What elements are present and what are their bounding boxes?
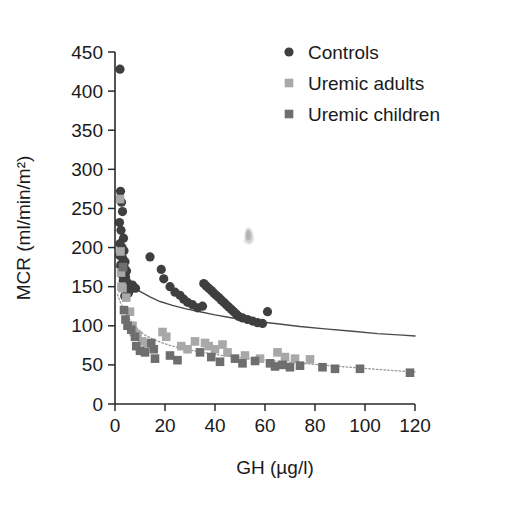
data-point <box>207 353 216 362</box>
x-axis-title: GH (µg/l) <box>236 457 313 478</box>
data-point <box>122 293 131 302</box>
legend-label: Uremic adults <box>308 73 424 94</box>
data-point <box>115 218 124 227</box>
data-point <box>263 307 272 316</box>
y-tick-label: 450 <box>71 42 103 63</box>
data-point <box>116 195 125 204</box>
data-point <box>251 357 260 366</box>
x-tick-label: 0 <box>110 415 121 436</box>
y-axis-title: MCR (ml/min/m²) <box>13 156 34 301</box>
data-point <box>162 332 171 341</box>
y-tick-label: 200 <box>71 237 103 258</box>
chart-figure: 0501001502002503003504004500204060801001… <box>0 0 514 511</box>
data-point <box>306 355 315 364</box>
y-tick-label: 0 <box>92 394 103 415</box>
legend-marker-controls <box>284 47 293 56</box>
legend-item-uremic-children: Uremic children <box>285 104 440 125</box>
legend-marker-uremic-children <box>285 110 294 119</box>
data-point <box>231 354 240 363</box>
data-point <box>116 226 125 235</box>
legend-label: Uremic children <box>308 104 440 125</box>
data-point <box>271 362 280 371</box>
data-point <box>258 319 267 328</box>
data-point <box>223 348 232 357</box>
data-point <box>118 207 127 216</box>
legend-marker-uremic-adults <box>285 79 294 88</box>
y-tick-label: 250 <box>71 198 103 219</box>
x-tick-label: 120 <box>399 415 431 436</box>
data-point <box>356 365 365 374</box>
x-tick-label: 100 <box>349 415 381 436</box>
data-point <box>216 357 225 366</box>
data-point <box>173 356 182 365</box>
data-point <box>406 368 415 377</box>
data-point <box>166 351 175 360</box>
data-point <box>149 345 158 354</box>
data-point <box>218 340 227 349</box>
x-tick-label: 20 <box>154 415 175 436</box>
y-tick-label: 300 <box>71 159 103 180</box>
y-tick-label: 400 <box>71 81 103 102</box>
data-point <box>119 263 128 272</box>
data-point <box>331 365 340 374</box>
data-point <box>131 284 140 293</box>
data-point <box>118 284 127 293</box>
y-tick-label: 150 <box>71 276 103 297</box>
data-point <box>145 252 154 261</box>
y-tick-label: 50 <box>82 354 103 375</box>
legend-label: Controls <box>308 42 379 63</box>
data-point <box>141 348 150 357</box>
data-point <box>318 363 327 372</box>
data-point <box>281 353 290 362</box>
data-point <box>120 306 129 315</box>
x-tick-label: 80 <box>304 415 325 436</box>
data-point <box>241 351 250 360</box>
scatter-plot: 0501001502002503003504004500204060801001… <box>0 0 514 511</box>
data-point <box>116 187 125 196</box>
data-point <box>191 337 200 346</box>
data-point <box>116 247 125 256</box>
data-point <box>273 348 282 357</box>
data-point <box>131 332 140 341</box>
x-tick-label: 40 <box>204 415 225 436</box>
data-point <box>183 345 192 354</box>
data-point <box>157 265 166 274</box>
data-point <box>286 363 295 372</box>
data-point <box>238 359 247 368</box>
data-point <box>115 65 124 74</box>
x-tick-label: 60 <box>254 415 275 436</box>
data-point <box>296 361 305 370</box>
data-point <box>211 345 220 354</box>
data-point <box>278 361 287 370</box>
data-point <box>159 274 168 283</box>
data-point <box>196 348 205 357</box>
y-tick-label: 100 <box>71 315 103 336</box>
data-point <box>198 302 207 311</box>
y-tick-label: 350 <box>71 120 103 141</box>
data-point <box>151 354 160 363</box>
